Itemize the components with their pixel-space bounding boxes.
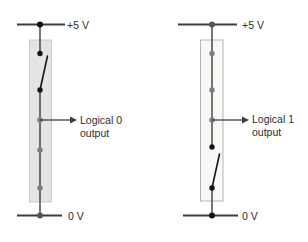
ground-junction-dot [37,213,43,219]
ground-label: 0 V [68,210,84,222]
switch-contact-dot-top [209,144,214,149]
output-label-line1: Logical 0 [80,114,122,126]
connection-dot [37,185,42,190]
ground-junction-dot [209,213,215,219]
connection-dot [209,87,214,92]
connection-dot [37,147,42,152]
output-label-line2: output [252,126,281,138]
circuit-logical-1: +5 V Logical 1 output 0 V [178,19,294,222]
supply-junction-dot [37,22,43,28]
switch-contact-dot-bottom [209,185,214,190]
output-label-line2: output [80,127,109,139]
diagram-canvas: +5 V Logical 0 output 0 V [0,0,308,242]
arrowhead-icon [70,117,77,124]
supply-label: +5 V [242,19,264,31]
switch-contact-dot-bottom [37,87,42,92]
output-label-line1: Logical 1 [252,113,294,125]
circuit-logical-0: +5 V Logical 0 output 0 V [17,19,122,222]
supply-label: +5 V [67,19,89,31]
connection-dot [209,51,214,56]
arrowhead-icon [242,117,249,124]
switch-logic-diagram: +5 V Logical 0 output 0 V [0,0,308,242]
switch-contact-dot-top [37,51,42,56]
ground-label: 0 V [242,210,258,222]
supply-junction-dot [209,22,215,28]
